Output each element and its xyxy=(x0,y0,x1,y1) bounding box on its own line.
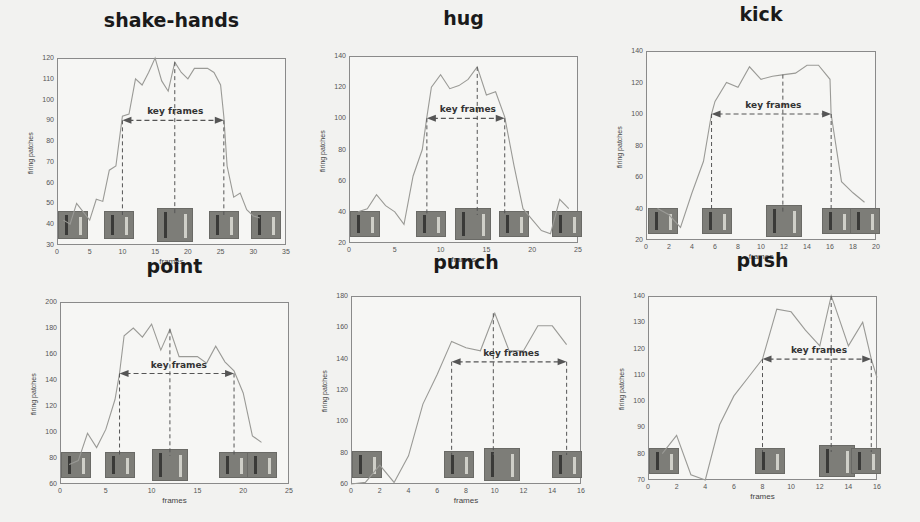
arrowhead-icon xyxy=(862,356,871,363)
key-frames-annotation: key frames xyxy=(791,345,847,355)
arrowhead-icon xyxy=(763,356,772,363)
line-series xyxy=(0,0,920,522)
